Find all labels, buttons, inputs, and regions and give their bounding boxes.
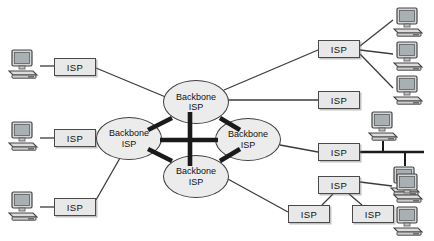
computer-left-mid[interactable] [6,120,40,152]
computer-icon [6,48,40,80]
isp-box-mid-right[interactable]: ISP [318,91,360,109]
computer-icon [391,205,425,237]
computer-topright-3[interactable] [391,74,425,106]
isp-label: ISP [67,202,84,213]
link-isp-top-right-pc2 [360,50,393,54]
computer-icon [391,74,425,106]
isp-label: ISP [365,209,382,220]
computer-icon [391,172,425,204]
computer-bus-top[interactable] [366,110,400,142]
isp-label: ISP [67,62,84,73]
network-diagram: Backbone ISP Backbone ISP Backbone ISP B… [0,0,434,241]
top-right-fanout-links [360,20,393,88]
computer-bottom-2[interactable] [391,205,425,237]
isp-label: ISP [301,209,318,220]
backbone-label-line1: Backbone [176,92,216,103]
link-isp-top-right-pc1 [360,20,393,46]
isp-box-left-top[interactable]: ISP [54,58,96,76]
backbone-label-line1: Backbone [109,128,149,139]
computer-icon [6,120,40,152]
backbone-label-line2: ISP [189,177,204,188]
isp-box-left-mid[interactable]: ISP [54,129,96,147]
isp-box-left-bottom[interactable]: ISP [54,198,96,216]
computer-icon [366,110,400,142]
backbone-isp-top[interactable]: Backbone ISP [163,80,229,124]
link-tri-top-tri-right [349,194,362,205]
bus-segment [360,141,424,166]
computer-icon [6,190,40,222]
isp-label: ISP [331,180,348,191]
link-isp-top-right-pc3 [360,54,393,88]
isp-label: ISP [331,44,348,55]
backbone-isp-bottom[interactable]: Backbone ISP [163,155,229,198]
backbone-label-line2: ISP [241,140,256,151]
isp-box-top-right[interactable]: ISP [318,40,360,58]
isp-box-triangle-left[interactable]: ISP [288,205,330,223]
backbone-label-line1: Backbone [228,129,268,140]
computer-bottom-1[interactable] [391,172,425,204]
link-bb-bottom-isp-tri-left [226,178,288,212]
link-isp-left-top-backbone [96,68,168,98]
isp-box-triangle-top[interactable]: ISP [318,176,360,194]
link-bb-right-isp-bus [280,145,318,152]
computer-left-bottom[interactable] [6,190,40,222]
backbone-label-line1: Backbone [176,166,216,177]
computer-topright-1[interactable] [391,6,425,38]
isp-label: ISP [331,147,348,158]
backbone-isp-right[interactable]: Backbone ISP [215,118,281,161]
backbone-isp-left[interactable]: Backbone ISP [96,117,162,160]
isp-label: ISP [331,95,348,106]
computer-topright-2[interactable] [391,40,425,72]
link-isp-left-bottom-backbone [96,158,120,200]
isp-label: ISP [67,133,84,144]
link-tri-left-tri-top [322,194,333,205]
computer-left-top[interactable] [6,48,40,80]
isp-box-bus[interactable]: ISP [318,143,360,161]
link-bb-top-isp-top-right [224,50,318,90]
computer-icon [391,40,425,72]
backbone-label-line2: ISP [189,102,204,113]
isp-box-triangle-right[interactable]: ISP [352,205,394,223]
computer-icon [391,6,425,38]
backbone-label-line2: ISP [122,139,137,150]
